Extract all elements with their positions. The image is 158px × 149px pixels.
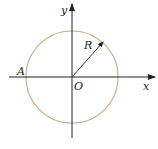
radius-label: R bbox=[83, 39, 92, 52]
circle-diagram: y x O R A bbox=[0, 0, 158, 149]
y-axis-label: y bbox=[60, 4, 68, 17]
x-axis-label: x bbox=[143, 80, 150, 93]
point-a-label: A bbox=[16, 65, 25, 78]
origin-label: O bbox=[74, 80, 83, 93]
